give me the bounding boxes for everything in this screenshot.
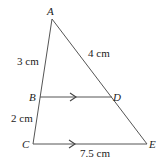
measurement-ce: 7.5 cm (80, 147, 110, 159)
measurement-bc: 2 cm (11, 112, 33, 124)
measurement-ab: 3 cm (17, 55, 39, 67)
segment-ac (33, 19, 52, 144)
vertex-label-b: B (29, 91, 36, 103)
vertex-label-d: D (112, 91, 121, 103)
triangle-diagram: A B C D E 3 cm 4 cm 2 cm 7.5 cm (0, 0, 165, 167)
measurement-ad: 4 cm (88, 47, 110, 59)
vertex-label-c: C (22, 138, 30, 150)
segment-ae (52, 19, 147, 144)
vertex-label-e: E (148, 138, 156, 150)
vertex-label-a: A (46, 5, 54, 17)
